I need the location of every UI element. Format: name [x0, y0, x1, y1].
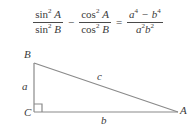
equals-operator: = [115, 16, 123, 28]
fraction-numerator: a4 − b4 [127, 9, 163, 21]
side-label-a: a [22, 80, 28, 92]
minus-operator: − [67, 16, 75, 28]
numerator-exponent-b: 4 [157, 7, 161, 15]
cos-function-name: cos [81, 8, 96, 20]
right-angle-marker [34, 104, 42, 112]
cos-denominator-exponent: 2 [96, 22, 100, 30]
numerator-minus-operator: − [141, 8, 149, 20]
fraction-numerator: sin2 A [33, 9, 63, 21]
triangle-side-c-line [34, 63, 178, 112]
vertex-label-b: B [24, 48, 31, 60]
sin-numerator-argument: A [54, 8, 61, 20]
fraction-cos-ratio: cos2 A cos2 B [79, 9, 111, 35]
fraction-sin-ratio: sin2 A sin2 B [33, 9, 63, 35]
side-label-b: b [101, 114, 107, 126]
sin-denominator-exponent: 2 [48, 22, 52, 30]
sin-function-name: sin [35, 8, 48, 20]
equation-expression: sin2 A sin2 B − cos2 A cos2 B = a4 − b4 … [0, 2, 196, 42]
denominator-exponent-b: 2 [150, 22, 154, 30]
sin-numerator-exponent: 2 [48, 7, 52, 15]
side-label-c: c [97, 70, 102, 82]
fraction-denominator: cos2 B [79, 24, 111, 36]
cos-denominator-argument: B [102, 23, 109, 35]
sin-function-name: sin [35, 23, 48, 35]
cos-numerator-exponent: 2 [96, 7, 100, 15]
cos-function-name: cos [81, 23, 96, 35]
fraction-denominator: sin2 B [33, 24, 63, 36]
right-triangle-figure: B C A a b c [0, 42, 196, 136]
fraction-algebraic-ratio: a4 − b4 a2b2 [127, 9, 163, 35]
vertex-label-c: C [24, 106, 31, 118]
equation-row: sin2 A sin2 B − cos2 A cos2 B = a4 − b4 … [33, 9, 163, 35]
fraction-numerator: cos2 A [79, 9, 111, 21]
cos-numerator-argument: A [102, 8, 109, 20]
sin-denominator-argument: B [54, 23, 61, 35]
numerator-exponent-a: 4 [135, 7, 139, 15]
vertex-label-a: A [180, 104, 187, 116]
fraction-denominator: a2b2 [134, 24, 156, 36]
